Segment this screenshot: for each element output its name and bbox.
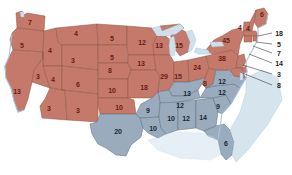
state-CO: [62, 66, 98, 94]
state-ND: [97, 24, 127, 45]
state-CT: [244, 36, 252, 42]
state-IN: [174, 60, 189, 82]
state-MO: [128, 70, 160, 98]
state-MN: [127, 26, 157, 55]
state-OK: [98, 98, 136, 114]
electoral-map: .r{fill:#c4796a;stroke:#8a5547;stroke-wi…: [0, 0, 292, 175]
state-IA: [128, 55, 156, 70]
state-AL: [178, 100, 196, 130]
us-map-svg: .r{fill:#c4796a;stroke:#8a5547;stroke-wi…: [0, 0, 292, 175]
state-NM: [62, 90, 98, 122]
chesapeake-bay: [240, 72, 243, 80]
state-WY: [62, 45, 98, 70]
state-MA: [243, 31, 258, 36]
lake-ontario: [210, 42, 224, 47]
state-MS: [159, 102, 178, 134]
state-SD: [98, 45, 128, 63]
state-MT: [56, 24, 98, 45]
state-NE: [98, 63, 131, 79]
state-OR: [10, 28, 44, 52]
state-RI: [253, 36, 257, 41]
state-KS: [98, 79, 128, 98]
